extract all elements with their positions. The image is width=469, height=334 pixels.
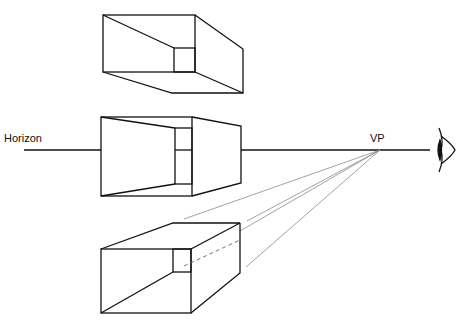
horizon-label: Horizon: [4, 132, 42, 144]
box-on-horizon: [101, 117, 241, 196]
box-below-horizon: [101, 223, 240, 313]
vanishing-point-label: VP: [370, 132, 385, 144]
box-above-horizon: [103, 15, 243, 93]
vanishing-lines: [184, 150, 380, 267]
perspective-diagram: [0, 0, 469, 334]
eye-icon: [438, 128, 455, 172]
